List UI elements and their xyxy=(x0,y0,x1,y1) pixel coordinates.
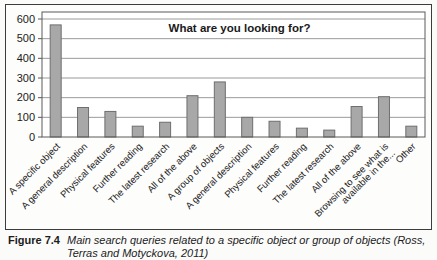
y-axis-tick-label: 300 xyxy=(17,72,35,84)
y-axis-tick-label: 400 xyxy=(17,52,35,64)
x-axis-label: Other xyxy=(393,141,418,166)
y-axis-tick-label: 0 xyxy=(29,131,35,143)
figure-caption: Figure 7.4 Main search queries related t… xyxy=(8,234,432,260)
bar xyxy=(50,25,61,137)
y-axis-tick-label: 500 xyxy=(17,32,35,44)
chart-title: What are you looking for? xyxy=(169,22,311,34)
figure-caption-label: Figure 7.4 xyxy=(8,234,60,247)
figure-caption-line1: Main search queries related to a specifi… xyxy=(67,234,425,246)
bar xyxy=(78,108,89,138)
bar xyxy=(378,97,389,137)
bar xyxy=(160,122,171,137)
bar xyxy=(214,82,225,137)
figure-caption-line2: Terras and Motyckova, 2011) xyxy=(67,247,208,259)
bar xyxy=(351,107,362,137)
figure-caption-text: Main search queries related to a specifi… xyxy=(67,234,432,260)
bar xyxy=(269,121,280,137)
bar-chart: 0100200300400500600What are you looking … xyxy=(6,5,431,229)
bar xyxy=(187,96,198,137)
figure-frame: 0100200300400500600What are you looking … xyxy=(5,4,432,230)
y-axis-tick-label: 100 xyxy=(17,111,35,123)
bar xyxy=(406,126,417,137)
bar xyxy=(242,117,253,137)
bar xyxy=(105,111,116,137)
bar xyxy=(296,128,307,137)
y-axis-tick-label: 600 xyxy=(17,13,35,25)
bar xyxy=(324,130,335,137)
y-axis-tick-label: 200 xyxy=(17,91,35,103)
bar xyxy=(132,126,143,137)
